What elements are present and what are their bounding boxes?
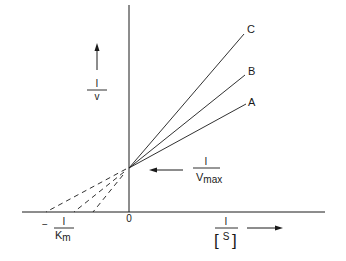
line-label-b: B	[248, 65, 255, 77]
y-intercept-label-denominator: Vmax	[196, 171, 222, 185]
y-axis-label-numerator: I	[96, 78, 99, 89]
origin-label: 0	[126, 213, 132, 224]
line-b	[129, 75, 245, 168]
x-intercept-label-numerator: I	[63, 216, 66, 227]
right-arrow-icon	[275, 226, 283, 231]
dashed-extrapolation-c	[46, 169, 126, 212]
x-axis-label-denominator: S	[223, 231, 230, 242]
dashed-extrapolation-b	[74, 172, 124, 212]
x-axis-label-bracket-close: ]	[232, 231, 237, 250]
lineweaver-burk-plot: C B A I v I Vmax 0 − I Km I [ S ]	[0, 0, 346, 261]
line-label-c: C	[247, 23, 255, 35]
line-label-a: A	[248, 96, 256, 108]
left-arrow-icon	[149, 168, 157, 173]
dashed-extrapolation-a	[93, 175, 123, 212]
up-arrow-icon	[95, 43, 100, 51]
x-axis-label-numerator: I	[225, 216, 228, 227]
x-axis-label-bracket-open: [	[214, 231, 219, 250]
x-intercept-label-denominator: Km	[55, 229, 71, 243]
x-intercept-label-sign: −	[42, 219, 48, 230]
y-axis-label-denominator: v	[95, 91, 100, 102]
line-c	[129, 34, 244, 168]
line-a	[129, 104, 246, 168]
y-intercept-label-numerator: I	[205, 156, 208, 167]
